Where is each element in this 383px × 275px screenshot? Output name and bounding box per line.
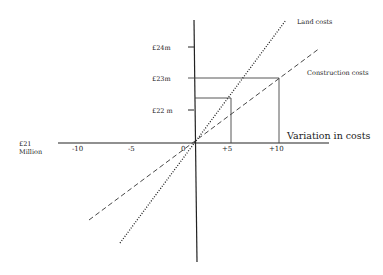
x-tick-label-p5: +5 [222, 145, 232, 153]
x-tick-label-m10: -10 [72, 145, 83, 153]
y-label-23: £23m [152, 75, 171, 83]
construction-costs-line [89, 48, 320, 220]
x-axis-title: Variation in costs [286, 130, 371, 141]
x-tick-label-m5: -5 [128, 145, 135, 153]
origin-label-unit: Million [19, 148, 42, 156]
y-label-24: £24m [152, 44, 171, 52]
land-costs-line [120, 20, 286, 243]
land-costs-label: Land costs [297, 18, 332, 26]
x-tick-label-0: 0 [181, 145, 185, 153]
guide-rect-plus10 [188, 78, 279, 143]
cost-variation-chart: Land costs Construction costs Variation … [0, 0, 383, 275]
construction-costs-label: Construction costs [307, 69, 369, 77]
origin-label-value: £21 [19, 140, 31, 148]
x-tick-label-p10: +10 [269, 145, 284, 153]
guide-rect-plus5 [195, 98, 231, 143]
y-label-22: £22 m [152, 107, 173, 115]
